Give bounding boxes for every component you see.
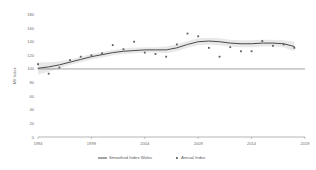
- y-tick-label: 100: [27, 66, 35, 71]
- legend-label-smoothed: Smoothed Index Wales: [109, 155, 152, 160]
- y-tick-label: 180: [27, 12, 35, 17]
- y-tick-label: 0: [32, 135, 35, 140]
- data-point: [261, 40, 263, 42]
- y-tick-label: 60: [29, 94, 34, 99]
- data-point: [283, 44, 285, 46]
- y-tick-label: 80: [29, 80, 34, 85]
- x-tick-label: 2009: [194, 141, 204, 146]
- data-point: [69, 59, 71, 61]
- y-tick-label: 140: [27, 39, 35, 44]
- x-tick-label: 2019: [300, 141, 310, 146]
- data-point: [133, 41, 135, 43]
- data-point: [91, 54, 93, 56]
- y-axis-title: MII Index: [12, 67, 17, 84]
- legend-label-annual: Annual Index: [181, 155, 206, 160]
- data-point: [80, 56, 82, 58]
- data-point: [240, 50, 242, 52]
- data-point: [155, 53, 157, 55]
- mii-index-line-chart: 0204060801001201401601801994199920042009…: [0, 0, 316, 170]
- y-tick-label: 40: [29, 107, 34, 112]
- data-point: [37, 63, 39, 65]
- data-point: [208, 47, 210, 49]
- data-point: [112, 44, 114, 46]
- x-tick-label: 2014: [247, 141, 257, 146]
- x-tick-label: 2004: [140, 141, 150, 146]
- y-tick-label: 160: [27, 26, 35, 31]
- chart-container: 0204060801001201401601801994199920042009…: [0, 0, 316, 170]
- data-point: [123, 48, 125, 50]
- data-point: [197, 35, 199, 37]
- data-point: [251, 50, 253, 52]
- x-tick-label: 1999: [87, 141, 97, 146]
- data-point: [48, 73, 50, 75]
- y-tick-label: 120: [27, 53, 35, 58]
- data-point: [219, 56, 221, 58]
- data-point: [58, 67, 60, 69]
- x-tick-label: 1994: [33, 141, 43, 146]
- data-point: [101, 52, 103, 54]
- data-point: [144, 52, 146, 54]
- y-tick-label: 20: [29, 121, 34, 126]
- data-point: [229, 46, 231, 48]
- data-point: [176, 44, 178, 46]
- legend-point-swatch: [176, 157, 178, 159]
- data-point: [272, 45, 274, 47]
- data-point: [293, 47, 295, 49]
- data-point: [165, 56, 167, 58]
- annual-index-points: [37, 33, 295, 75]
- data-point: [187, 33, 189, 35]
